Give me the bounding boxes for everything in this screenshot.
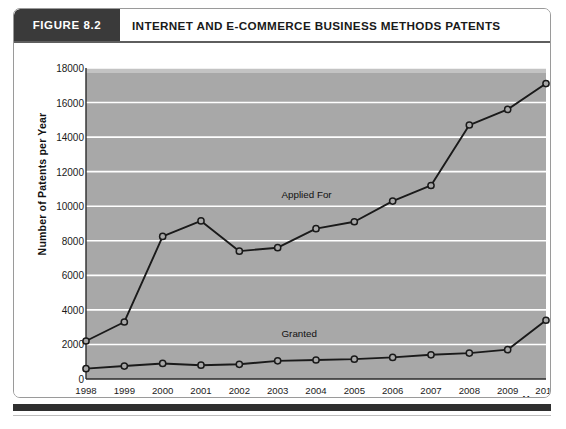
page-edge-line (13, 415, 551, 416)
series-annotation-applied-for: Applied For (282, 189, 332, 200)
x-axis-tick-label: 2000 (152, 385, 173, 396)
figure-number-badge: FIGURE 8.2 (14, 9, 120, 41)
x-axis-tick-label: 2006 (382, 385, 403, 396)
x-axis-tick-label: 1999 (114, 385, 135, 396)
chart-plot-region: Number of Patents per Year 0200040006000… (14, 43, 551, 398)
x-axis-tick-labels: 1998199920002001200220032004200520062007… (14, 43, 551, 398)
x-axis-title: Year (523, 395, 544, 398)
figure-card: FIGURE 8.2 INTERNET AND E-COMMERCE BUSIN… (13, 8, 551, 398)
figure-header: FIGURE 8.2 INTERNET AND E-COMMERCE BUSIN… (14, 9, 551, 41)
x-axis-tick-label: 2008 (459, 385, 480, 396)
x-axis-tick-label: 2004 (305, 385, 326, 396)
figure-title: INTERNET AND E-COMMERCE BUSINESS METHODS… (132, 9, 501, 41)
series-annotation-granted: Granted (282, 328, 317, 339)
x-axis-tick-label: 2003 (267, 385, 288, 396)
x-axis-tick-label: 2009 (497, 385, 518, 396)
x-axis-tick-label: 2001 (190, 385, 211, 396)
x-axis-tick-label: 1998 (75, 385, 96, 396)
x-axis-tick-label: 2007 (420, 385, 441, 396)
page-bottom-band (13, 404, 551, 411)
x-axis-tick-label: 2005 (344, 385, 365, 396)
x-axis-tick-label: 2002 (229, 385, 250, 396)
